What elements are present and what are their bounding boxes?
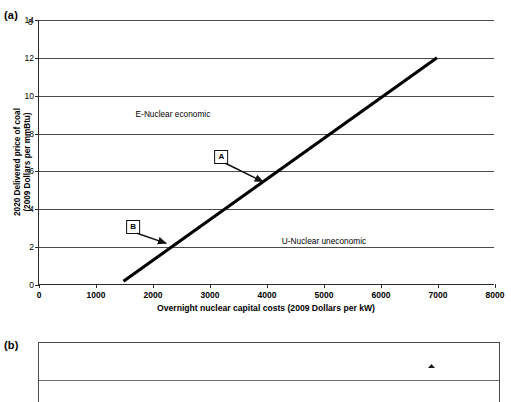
xtick-label-4000: 4000	[258, 290, 277, 300]
gridline-y-12	[39, 58, 494, 59]
y-axis-title-line2: (2009 Dollars per mmBtu)	[23, 112, 32, 211]
callout-box-b: B	[126, 220, 140, 234]
xtick-mark-8000	[495, 284, 496, 288]
panel-b-ytick-top: 8	[28, 17, 33, 27]
region-label-nuclear-uneconomic: U-Nuclear uneconomic	[282, 236, 366, 246]
ytick-mark-2	[35, 247, 39, 248]
panel-a-tag: (a)	[4, 9, 18, 21]
ytick-mark-8	[35, 134, 39, 135]
plot-area-b	[38, 342, 500, 402]
panel-a: (a) 02468101214 010002000300040005000600…	[0, 0, 511, 320]
ytick-mark-4	[35, 209, 39, 210]
region-label-nuclear-economic: E-Nuclear economic	[136, 109, 211, 119]
xtick-label-3000: 3000	[201, 290, 220, 300]
xtick-mark-0	[39, 284, 40, 288]
ytick-label-2: 2	[29, 242, 34, 252]
xtick-mark-7000	[438, 284, 439, 288]
xtick-mark-5000	[324, 284, 325, 288]
gridline-y-4	[39, 209, 494, 210]
panel-b-tag: (b)	[4, 339, 19, 351]
gridline-y-10	[39, 96, 494, 97]
gridline-b-1	[39, 380, 499, 381]
gridline-y-14	[39, 20, 494, 21]
xtick-label-7000: 7000	[429, 290, 448, 300]
ytick-mark-14	[35, 20, 39, 21]
xtick-mark-3000	[210, 284, 211, 288]
callout-box-a: A	[215, 150, 229, 164]
xtick-mark-1000	[96, 284, 97, 288]
xtick-label-1000: 1000	[87, 290, 106, 300]
xtick-label-2000: 2000	[144, 290, 163, 300]
plot-area-a: 02468101214 0100020003000400050006000700…	[38, 20, 494, 285]
panel-b-partial-mark	[428, 364, 435, 369]
gridline-y-8	[39, 134, 494, 135]
xtick-label-6000: 6000	[372, 290, 391, 300]
xtick-mark-6000	[381, 284, 382, 288]
xtick-mark-2000	[153, 284, 154, 288]
ytick-label-0: 0	[29, 280, 34, 290]
gridline-y-6	[39, 171, 494, 172]
gridline-y-2	[39, 247, 494, 248]
ytick-mark-10	[35, 96, 39, 97]
ytick-mark-6	[35, 171, 39, 172]
ytick-mark-12	[35, 58, 39, 59]
xtick-mark-4000	[267, 284, 268, 288]
y-axis-title: 2020 Delivered price of coal (2009 Dolla…	[13, 87, 33, 237]
xtick-label-5000: 5000	[315, 290, 334, 300]
y-axis-title-line1: 2020 Delivered price of coal	[13, 108, 22, 216]
x-axis-title: Overnight nuclear capital costs (2009 Do…	[38, 303, 494, 313]
xtick-label-8000: 8000	[486, 290, 505, 300]
ytick-label-12: 12	[25, 53, 34, 63]
xtick-label-0: 0	[37, 290, 42, 300]
